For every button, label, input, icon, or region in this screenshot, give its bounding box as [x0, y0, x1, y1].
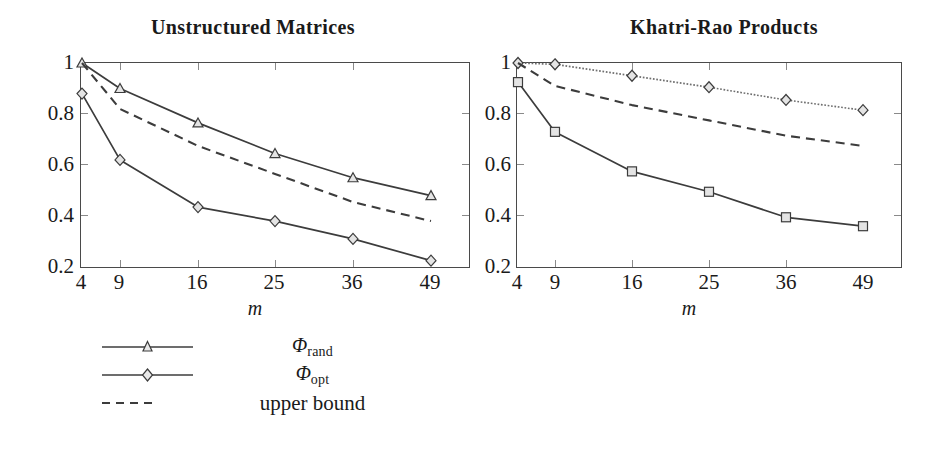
square-marker [705, 187, 714, 196]
series-plot-khatri-rao [517, 63, 901, 267]
legend-item-phi-opt: Φopt [100, 361, 430, 389]
chart-title-khatri-rao: Khatri-Rao Products [467, 16, 937, 39]
y-tick-label: 0.6 [48, 152, 74, 177]
diamond-marker [77, 88, 87, 99]
figure-container: Unstructured Matrices 1 0.8 0.6 0.4 0.2 [0, 0, 937, 449]
y-tick-label: 0.4 [48, 203, 74, 228]
phi-symbol: Φ [292, 334, 307, 356]
x-axis-label-right: m [682, 297, 696, 320]
diamond-marker [348, 233, 358, 244]
diamond-marker [858, 105, 868, 116]
x-tick-label: 25 [264, 270, 285, 295]
x-tick-label: 16 [187, 270, 208, 295]
diamond-marker [270, 216, 280, 227]
diamond-marker [781, 94, 791, 105]
legend-sample-dashed-icon [100, 393, 195, 413]
square-marker [551, 127, 560, 136]
series-line [82, 94, 431, 261]
triangle-marker [115, 84, 125, 93]
series-line [518, 63, 863, 110]
x-tick-label: 4 [512, 270, 523, 295]
subscript-rand: rand [307, 344, 333, 359]
x-tick-label: 25 [699, 270, 720, 295]
diamond-marker [193, 202, 203, 213]
legend-sample-solid-triangle-icon [100, 337, 195, 357]
y-tick-label: 1 [501, 50, 512, 75]
y-tick-label: 0.4 [485, 203, 511, 228]
triangle-marker [193, 118, 203, 127]
chart-panel-khatri-rao: Khatri-Rao Products 1 0.8 0.6 0.4 0.2 [467, 0, 937, 449]
series-line [82, 63, 431, 221]
triangle-marker [270, 149, 280, 158]
x-axis-label-left: m [248, 297, 262, 320]
legend-item-phi-rand: Φrand [100, 333, 430, 361]
x-tick-label: 49 [420, 270, 441, 295]
diamond-marker [550, 59, 560, 70]
square-marker [514, 78, 523, 87]
subscript-opt: opt [311, 372, 330, 387]
legend-item-upper-bound: upper bound [100, 389, 430, 417]
legend-label-upper-bound: upper bound [195, 391, 430, 416]
legend-label-phi-rand: Φrand [195, 334, 430, 360]
series-line [518, 63, 863, 146]
series-line [82, 63, 431, 196]
y-tick-label: 0.2 [48, 254, 74, 279]
series-plot-unstructured [81, 63, 469, 267]
x-tick-label: 36 [776, 270, 797, 295]
diamond-marker [115, 154, 125, 165]
square-marker [859, 222, 868, 231]
x-tick-label: 36 [342, 270, 363, 295]
legend-label-phi-opt: Φopt [195, 362, 430, 388]
diamond-marker [627, 70, 637, 81]
y-axis-labels-left: 1 0.8 0.6 0.4 0.2 [0, 0, 74, 449]
phi-symbol: Φ [296, 362, 311, 384]
chart-panel-unstructured: Unstructured Matrices 1 0.8 0.6 0.4 0.2 [0, 0, 470, 449]
legend-unstructured: Φrand Φopt [100, 333, 430, 417]
square-marker [628, 167, 637, 176]
y-tick-label: 0.8 [485, 101, 511, 126]
x-tick-label: 9 [114, 270, 125, 295]
y-tick-label: 0.8 [48, 101, 74, 126]
plot-area-unstructured [80, 62, 470, 268]
diamond-marker [704, 82, 714, 93]
y-tick-label: 1 [64, 50, 75, 75]
square-marker [782, 213, 791, 222]
x-tick-label: 4 [76, 270, 87, 295]
x-tick-label: 9 [550, 270, 561, 295]
legend-sample-solid-diamond-icon [100, 365, 195, 385]
plot-area-khatri-rao [516, 62, 902, 268]
y-tick-label: 0.6 [485, 152, 511, 177]
y-tick-label: 0.2 [485, 254, 511, 279]
y-axis-labels-right: 1 0.8 0.6 0.4 0.2 [439, 0, 511, 449]
x-tick-label: 16 [622, 270, 643, 295]
x-tick-label: 49 [853, 270, 874, 295]
diamond-marker [426, 255, 436, 266]
